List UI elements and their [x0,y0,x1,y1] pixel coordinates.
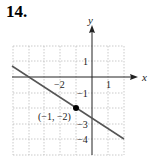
point-marker [73,105,79,111]
x-axis-arrow-icon [130,74,138,80]
coordinate-graph: x y −2 1 1 −1 −3 −4 (−1, −2) [0,0,161,166]
y-axis-arrow-icon [89,25,95,33]
y-tick-1: 1 [83,56,88,67]
y-tick-neg4: −4 [77,134,88,145]
y-tick-neg3: −3 [77,119,88,130]
x-tick-neg2: −2 [54,79,65,90]
y-axis-label: y [87,14,93,26]
x-tick-1: 1 [106,79,111,90]
grid [13,46,124,155]
axes [12,30,133,155]
point-label: (−1, −2) [38,111,71,123]
y-tick-neg1: −1 [77,88,88,99]
x-axis-label: x [141,71,147,83]
